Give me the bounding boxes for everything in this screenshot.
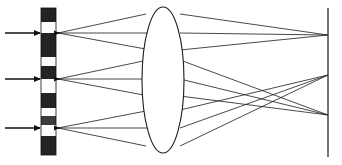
ray-fan-bottom-out	[180, 75, 328, 146]
incoming-arrows	[5, 33, 40, 128]
ray-segment	[58, 110, 151, 128]
ray-fan-top-in	[58, 14, 151, 50]
rays-object-to-lens	[58, 14, 151, 146]
ray-fan-bottom-in	[58, 110, 151, 146]
ray-fan-middle-out	[180, 60, 328, 115]
ray-segment	[58, 33, 151, 50]
ray-fan-top-out	[180, 14, 328, 50]
mask-band	[41, 79, 56, 93]
ray-segment	[180, 75, 328, 146]
mask-band	[41, 125, 56, 136]
mask-band	[41, 33, 56, 57]
ray-segment	[58, 14, 146, 33]
mask-band	[41, 66, 56, 79]
ray-segment	[180, 96, 328, 115]
ray-segment	[180, 14, 328, 35]
mask-band	[41, 116, 56, 125]
ray-segment	[58, 79, 149, 96]
mask-band	[41, 57, 56, 66]
mask-band	[41, 22, 56, 33]
ray-segment	[58, 60, 148, 79]
ray-segment	[180, 60, 328, 115]
mask-band	[41, 136, 56, 155]
striped-mask	[41, 8, 56, 155]
ray-diagram-figure	[0, 0, 342, 165]
ray-segment	[180, 75, 328, 128]
rays-lens-to-screen	[180, 14, 328, 146]
mask-band	[41, 108, 56, 116]
ray-segment	[58, 128, 146, 146]
mask-band	[41, 8, 56, 22]
ray-fan-middle-in	[58, 60, 149, 96]
mask-exit-arrows	[56, 33, 59, 128]
converging-lens	[142, 7, 184, 153]
ray-diagram-canvas	[0, 0, 342, 165]
ray-segment	[180, 35, 328, 50]
ray-segment	[180, 33, 328, 35]
ray-segment	[180, 79, 328, 115]
ray-segment	[180, 75, 328, 110]
mask-band	[41, 93, 56, 108]
